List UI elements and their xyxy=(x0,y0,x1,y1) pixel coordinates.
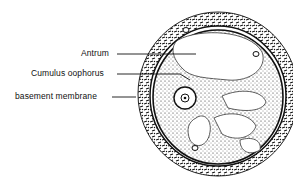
label-antrum: Antrum xyxy=(81,48,109,58)
label-cumulus-oophorus: Cumulus oophorus xyxy=(31,68,104,78)
follicle-diagram xyxy=(0,0,293,178)
label-basement-membrane: basement membrane xyxy=(15,91,97,101)
oocyte xyxy=(174,87,196,109)
